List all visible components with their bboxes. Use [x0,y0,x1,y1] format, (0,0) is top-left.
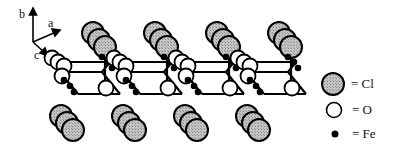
o-atom [285,81,300,96]
fe-atom [99,54,106,61]
legend-o-sphere [327,103,342,118]
axis-label-a: a [48,16,53,31]
fe-atom [285,54,292,61]
axis-label-c: c [34,48,39,63]
cl-atom [280,36,302,58]
crystal-structure-diagram [0,0,396,157]
fe-atom [223,54,230,61]
legend-fe-sphere [332,131,339,138]
fe-atom [61,77,68,84]
fe-atom [247,77,254,84]
legend-label-o: = O [352,102,372,118]
fe-atom [161,54,168,61]
cl-atom [186,119,208,141]
fe-atom [67,83,74,90]
o-atom [99,81,114,96]
o-atom [161,81,176,96]
fe-atom [185,77,192,84]
legend-label-fe: = Fe [352,126,376,142]
axis-label-b: b [19,7,25,22]
legend [322,73,344,138]
fe-atom [71,89,78,96]
fe-atom [123,77,130,84]
fe-atom [129,83,136,90]
atom-layer [45,22,303,141]
fe-atom [291,59,298,66]
fe-atom [295,65,302,72]
fe-atom [191,83,198,90]
fe-atom [195,89,202,96]
cl-atom [124,119,146,141]
legend-label-cl: = Cl [351,76,374,92]
fe-atom [253,83,260,90]
fe-atom [257,89,264,96]
cl-atom [248,119,270,141]
cl-atom [62,119,84,141]
o-atom [223,81,238,96]
fe-atom [133,89,140,96]
legend-cl-sphere [322,73,344,95]
